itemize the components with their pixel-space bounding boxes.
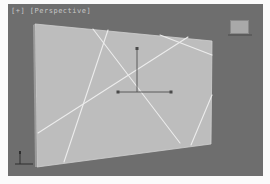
gizmo-handle-left[interactable] <box>117 91 120 94</box>
axis-tripod-icon <box>15 151 33 164</box>
gizmo-handle-top[interactable] <box>136 47 139 50</box>
scene-canvas[interactable] <box>8 4 263 176</box>
viewcube-base <box>228 34 252 36</box>
screenshot-frame: [+] [Perspective] <box>0 0 270 184</box>
gizmo-handle-right[interactable] <box>170 91 173 94</box>
plane-panel[interactable] <box>35 24 212 167</box>
viewcube-icon[interactable] <box>230 20 249 34</box>
3d-viewport[interactable]: [+] [Perspective] <box>8 4 263 176</box>
